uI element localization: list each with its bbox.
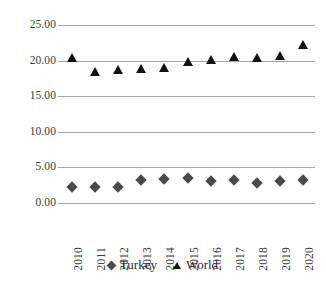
- gridline: [60, 96, 315, 97]
- x-axis-line: [60, 203, 315, 204]
- legend-entry-turkey[interactable]: Turkey: [108, 258, 157, 272]
- gridline: [60, 25, 315, 26]
- y-axis-tick-label: 0.00: [0, 197, 56, 209]
- data-point-world-2010: [67, 53, 77, 62]
- y-axis-tick-labels: 0.005.0010.0015.0020.0025.00: [0, 25, 56, 203]
- data-point-turkey-2018: [251, 177, 262, 188]
- data-point-world-2012: [113, 65, 123, 74]
- data-point-turkey-2010: [66, 181, 77, 192]
- legend-label-turkey: Turkey: [118, 258, 157, 272]
- y-axis-tick-label: 20.00: [0, 55, 56, 67]
- data-point-turkey-2016: [205, 175, 216, 186]
- data-point-world-2015: [183, 57, 193, 66]
- gridline: [60, 132, 315, 133]
- data-point-world-2014: [159, 63, 169, 72]
- data-point-turkey-2013: [135, 175, 146, 186]
- data-point-world-2020: [298, 40, 308, 49]
- data-point-world-2019: [275, 51, 285, 60]
- y-axis-tick-label: 15.00: [0, 90, 56, 102]
- plot-area: [60, 25, 315, 203]
- legend-label-world: World: [184, 258, 218, 272]
- data-point-turkey-2020: [298, 175, 309, 186]
- data-point-world-2013: [136, 64, 146, 73]
- y-axis-tick-label: 25.00: [0, 19, 56, 31]
- legend-entry-world[interactable]: World: [173, 258, 218, 272]
- data-point-world-2017: [229, 52, 239, 61]
- data-point-turkey-2015: [182, 172, 193, 183]
- data-point-world-2016: [206, 55, 216, 64]
- y-axis-tick-mark: [58, 132, 61, 133]
- data-point-turkey-2019: [275, 175, 286, 186]
- data-point-turkey-2017: [228, 174, 239, 185]
- data-point-world-2011: [90, 67, 100, 76]
- diamond-marker-icon: [106, 260, 116, 270]
- y-axis-tick-mark: [58, 25, 61, 26]
- chart-container: 0.005.0010.0015.0020.0025.00 20102011201…: [0, 0, 326, 294]
- y-axis-tick-mark: [58, 203, 61, 204]
- data-point-turkey-2012: [112, 182, 123, 193]
- gridline: [60, 167, 315, 168]
- chart-legend: TurkeyWorld: [0, 258, 326, 272]
- data-point-turkey-2014: [159, 173, 170, 184]
- triangle-marker-icon: [173, 262, 181, 269]
- y-axis-tick-label: 10.00: [0, 126, 56, 138]
- x-axis-tick-labels: 2010201120122013201420152016201720182019…: [60, 205, 315, 249]
- y-axis-tick-mark: [58, 167, 61, 168]
- y-axis-tick-label: 5.00: [0, 161, 56, 173]
- data-point-turkey-2011: [89, 182, 100, 193]
- data-point-world-2018: [252, 53, 262, 62]
- y-axis-tick-mark: [58, 61, 61, 62]
- y-axis-tick-mark: [58, 96, 61, 97]
